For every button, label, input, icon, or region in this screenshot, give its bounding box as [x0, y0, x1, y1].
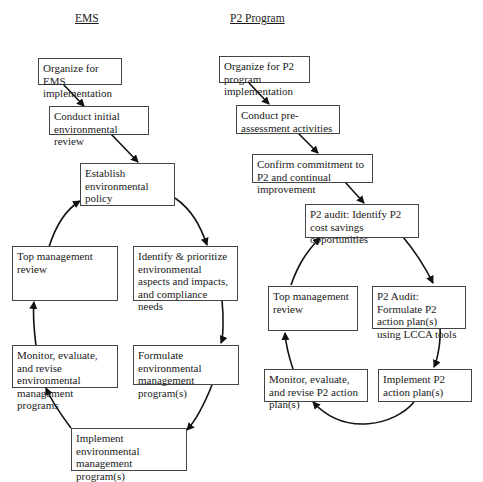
- p2-step-implement-action-plans: Implement P2 action plan(s): [378, 369, 472, 402]
- p2-step-audit-identify: P2 audit: Identify P2 cost savings oppor…: [305, 204, 419, 238]
- ems-step-formulate-program: Formulate environmental management progr…: [133, 345, 239, 385]
- ems-step-environmental-policy: Establish environmental policy: [80, 163, 175, 206]
- p2-step-monitor-revise: Monitor, evaluate, and revise P2 action …: [264, 369, 368, 402]
- arrow-ems-monitor-to-top: [34, 302, 36, 346]
- arrow-ems-top-to-policy: [49, 201, 80, 247]
- arrow-p2-commit-to-audit: [345, 182, 364, 203]
- ems-step-monitor-revise: Monitor, evaluate, and revise environmen…: [12, 345, 118, 388]
- p2-step-organize: Organize for P2 program implementation: [219, 56, 310, 83]
- arrow-p2-preassess-to-commit: [298, 133, 318, 153]
- arrow-ems-aspects-to-formulate: [221, 300, 223, 343]
- arrow-ems-review-to-policy: [111, 134, 138, 162]
- arrow-ems-policy-to-aspects: [175, 198, 207, 245]
- ems-step-organize: Organize for EMS implementation: [38, 58, 122, 85]
- ems-step-identify-aspects: Identify & prioritize environmental aspe…: [133, 246, 238, 301]
- arrow-p2-audit-to-formulate: [403, 237, 433, 283]
- arrow-p2-implement-to-monitor: [313, 402, 414, 424]
- p2-step-top-management-review: Top management review: [268, 286, 358, 331]
- ems-step-implement-program: Implement environmental management progr…: [71, 428, 187, 471]
- p2-step-confirm-commitment: Confirm commitment to P2 and continual i…: [252, 154, 373, 183]
- p2-step-pre-assessment: Conduct pre-assessment activities: [236, 105, 340, 134]
- arrow-ems-formulate-to-implement: [187, 385, 212, 430]
- arrow-p2-monitor-to-top: [285, 333, 293, 369]
- ems-step-initial-review: Conduct initial environmental review: [49, 106, 149, 135]
- ems-step-top-management-review: Top management review: [12, 246, 118, 301]
- p2-step-audit-formulate: P2 Audit: Formulate P2 action plan(s) us…: [372, 286, 466, 329]
